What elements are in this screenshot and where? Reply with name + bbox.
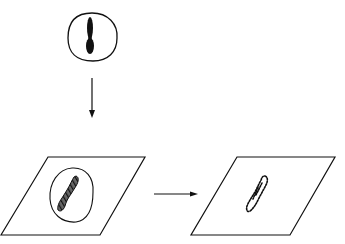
- cell-membrane: [50, 168, 93, 222]
- cell-with-chromosome: [68, 13, 117, 61]
- striped-chromosome-icon: [58, 176, 79, 211]
- diagram-canvas: [0, 0, 345, 244]
- dotted-chromosome-icon: [247, 176, 268, 212]
- arrow-right-icon: [154, 192, 198, 197]
- slide-with-cell: [1, 157, 145, 235]
- slide-with-dotted-chromosome: [191, 157, 335, 235]
- arrow-down-icon: [89, 78, 95, 118]
- slide-outline: [191, 157, 335, 235]
- slide-outline: [1, 157, 145, 235]
- cell-membrane: [68, 13, 117, 61]
- chromosome-icon: [86, 17, 94, 54]
